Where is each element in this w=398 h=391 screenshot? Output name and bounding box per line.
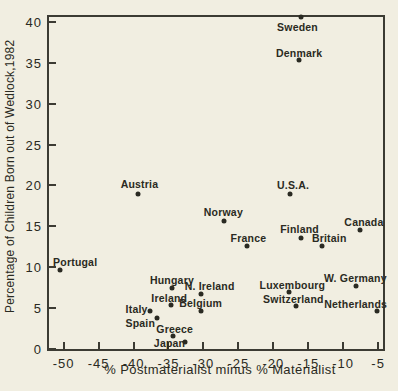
y-axis-tick bbox=[49, 103, 56, 105]
x-axis-tick bbox=[272, 342, 274, 349]
y-axis-tick bbox=[49, 225, 56, 227]
data-point-italy bbox=[147, 308, 152, 313]
data-point-france bbox=[245, 243, 250, 248]
data-point-u-s-a bbox=[288, 192, 293, 197]
data-point-norway bbox=[222, 218, 227, 223]
x-axis-tick bbox=[202, 342, 204, 349]
y-axis-tick bbox=[49, 348, 56, 350]
y-axis-tick-label: 40 bbox=[26, 14, 42, 29]
point-label-sweden: Sweden bbox=[277, 21, 318, 33]
point-label-n-ireland: N. Ireland bbox=[185, 280, 235, 292]
x-axis-tick bbox=[133, 342, 135, 349]
data-point-hungary bbox=[169, 286, 174, 291]
y-axis-tick-label: 15 bbox=[26, 219, 42, 234]
point-label-netherlands: Netherlands bbox=[324, 298, 387, 310]
data-point-canada bbox=[357, 228, 362, 233]
point-label-norway: Norway bbox=[204, 206, 243, 218]
point-label-w-germany: W. Germany bbox=[324, 272, 387, 284]
point-label-britain: Britain bbox=[312, 232, 347, 244]
point-label-japan: Japan bbox=[154, 337, 185, 349]
x-axis-tick bbox=[98, 342, 100, 349]
y-axis-tick-label: 20 bbox=[26, 178, 42, 193]
data-point-spain bbox=[155, 315, 160, 320]
point-label-switzerland: Switzerland bbox=[263, 293, 324, 305]
data-point-portugal bbox=[58, 268, 63, 273]
x-axis-tick bbox=[377, 342, 379, 349]
point-label-belgium: Belgium bbox=[179, 297, 222, 309]
x-axis-tick bbox=[237, 342, 239, 349]
x-axis-title: % Postmaterialist minus % Materialist bbox=[53, 362, 387, 377]
point-label-austria: Austria bbox=[121, 178, 159, 190]
y-axis-title: Percentage of Children Born out of Wedlo… bbox=[2, 6, 18, 346]
y-axis-tick-label: 35 bbox=[26, 55, 42, 70]
x-axis-tick bbox=[63, 342, 65, 349]
point-label-canada: Canada bbox=[344, 216, 383, 228]
point-label-denmark: Denmark bbox=[276, 47, 322, 59]
y-axis-tick-label: 5 bbox=[34, 301, 42, 316]
point-label-luxembourg: Luxembourg bbox=[260, 279, 326, 291]
point-label-italy: Italy bbox=[126, 303, 148, 315]
point-label-u-s-a: U.S.A. bbox=[277, 179, 309, 191]
y-axis-tick-label: 30 bbox=[26, 96, 42, 111]
y-axis-tick bbox=[49, 62, 56, 64]
y-axis-tick-label: 25 bbox=[26, 137, 42, 152]
y-axis-tick bbox=[49, 21, 56, 23]
y-axis-tick bbox=[49, 307, 56, 309]
data-point-w-germany bbox=[354, 284, 359, 289]
data-point-n-ireland bbox=[198, 292, 203, 297]
point-label-portugal: Portugal bbox=[53, 256, 97, 268]
data-point-austria bbox=[136, 192, 141, 197]
data-point-britain bbox=[320, 243, 325, 248]
data-point-belgium bbox=[198, 309, 203, 314]
y-axis-tick bbox=[49, 144, 56, 146]
x-axis-tick bbox=[342, 342, 344, 349]
y-axis-tick bbox=[49, 184, 56, 186]
data-point-sweden bbox=[298, 15, 303, 20]
plot-area: 0510152025303540-50-45-40-35-30-25-20-15… bbox=[47, 15, 385, 351]
point-label-greece: Greece bbox=[156, 323, 193, 335]
point-label-france: France bbox=[231, 232, 267, 244]
y-axis-tick-label: 10 bbox=[26, 260, 42, 275]
y-axis-tick-label: 0 bbox=[34, 342, 42, 357]
scatter-figure: Percentage of Children Born out of Wedlo… bbox=[0, 0, 398, 391]
point-label-spain: Spain bbox=[126, 317, 156, 329]
data-point-finland bbox=[298, 235, 303, 240]
x-axis-tick bbox=[307, 342, 309, 349]
